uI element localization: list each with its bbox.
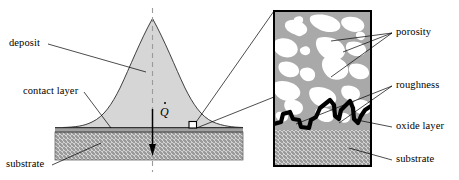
label-contact-layer: contact layer [23,86,78,97]
detail-region-marker [189,122,197,129]
figure-container: deposit contact layer substrate porosity… [0,0,459,180]
magnifier-expansion-lines [197,11,275,128]
substrate-block-right [274,130,371,166]
substrate-block-left [55,132,243,160]
label-substrate-right: substrate [396,154,434,165]
label-substrate-left: substrate [6,159,44,170]
contact-layer-band [55,128,243,133]
heat-flux-overdot-icon [164,102,166,104]
label-porosity: porosity [396,27,431,38]
leader-deposit [48,44,146,72]
label-oxide-layer: oxide layer [396,121,444,132]
label-deposit: deposit [9,38,40,49]
left-diagram [48,8,274,172]
label-roughness: roughness [396,80,439,91]
inset-detail [273,11,392,166]
heat-flux-symbol: Q [160,106,169,118]
